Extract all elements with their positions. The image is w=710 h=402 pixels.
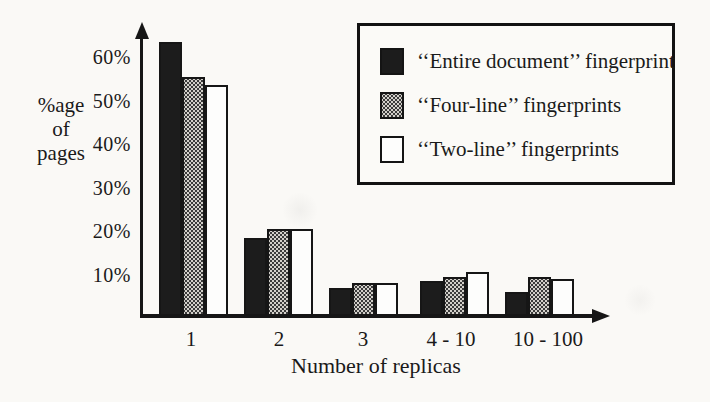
bar-series2-cat-3 [352, 283, 375, 318]
y-tick-label-60pct: 60% [58, 47, 131, 67]
y-axis-line [140, 36, 143, 317]
legend: ‘‘Entire document’’ fingerprint ‘‘Four-l… [357, 23, 675, 185]
x-category-label-10-100: 10 - 100 [513, 328, 583, 350]
bar-series2-cat-1 [182, 77, 205, 318]
bar-series1-cat-4-10 [420, 281, 443, 318]
x-category-label-1: 1 [186, 328, 197, 350]
x-axis-title: Number of replicas [291, 354, 461, 378]
legend-label-entire-document: ‘‘Entire document’’ fingerprint [417, 49, 675, 73]
legend-item-entire-document: ‘‘Entire document’’ fingerprint [380, 47, 666, 75]
legend-swatch-white [380, 136, 404, 163]
x-category-label-2: 2 [274, 328, 285, 350]
x-category-label-4-10: 4 - 10 [427, 328, 476, 350]
legend-swatch-halftone-gray [380, 92, 404, 119]
x-axis-line [140, 314, 594, 318]
legend-item-two-line: ‘‘Two-line’’ fingerprints [380, 135, 666, 163]
bar-series1-cat-2 [244, 238, 267, 318]
bar-series3-cat-3 [375, 283, 398, 318]
y-tick-label-40pct: 40% [58, 134, 131, 154]
legend-label-four-line: ‘‘Four-line’’ fingerprints [417, 93, 621, 117]
bar-series3-cat-2 [290, 229, 313, 318]
bar-chart-figure: %age of pages 60%50%40%30%20%10%1234 - 1… [0, 0, 710, 402]
bar-series1-cat-1 [159, 42, 182, 318]
bar-series3-cat-1 [205, 85, 228, 318]
legend-item-four-line: ‘‘Four-line’’ fingerprints [380, 91, 666, 119]
y-tick-label-20pct: 20% [58, 221, 131, 241]
legend-label-two-line: ‘‘Two-line’’ fingerprints [417, 137, 619, 161]
bar-series2-cat-10-100 [528, 277, 551, 318]
bar-series3-cat-4-10 [466, 272, 489, 318]
x-axis-arrow-icon [592, 309, 610, 323]
bar-series2-cat-2 [267, 229, 290, 318]
legend-swatch-solid-black [380, 48, 404, 75]
bar-series3-cat-10-100 [551, 279, 574, 318]
y-tick-label-10pct: 10% [58, 265, 131, 285]
bar-series2-cat-4-10 [443, 277, 466, 318]
y-tick-label-50pct: 50% [58, 91, 131, 111]
x-category-label-3: 3 [358, 328, 369, 350]
y-tick-label-30pct: 30% [58, 178, 131, 198]
